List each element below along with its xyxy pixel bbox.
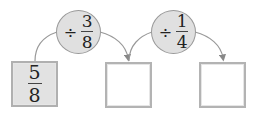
connector-line — [129, 32, 152, 61]
numerator: 1 — [177, 13, 188, 30]
answer-box-2[interactable] — [199, 62, 246, 108]
denominator: 8 — [82, 34, 93, 51]
denominator: 8 — [28, 86, 40, 105]
numerator: 5 — [28, 63, 40, 82]
operation-divide-3-8: ÷ 3 8 — [56, 10, 101, 54]
divide-sign: ÷ — [64, 23, 77, 42]
start-value-box: 5 8 — [11, 61, 58, 107]
operand-fraction: 3 8 — [81, 13, 93, 51]
start-fraction: 5 8 — [28, 63, 42, 105]
divide-sign: ÷ — [159, 23, 172, 42]
connector-line — [35, 32, 57, 61]
fraction-division-diagram: 5 8 ÷ 3 8 ÷ 1 4 — [0, 0, 257, 116]
operation-divide-1-4: ÷ 1 4 — [151, 10, 196, 54]
arrow-icon — [195, 32, 223, 58]
numerator: 3 — [82, 13, 93, 30]
denominator: 4 — [177, 34, 188, 51]
arrow-icon — [100, 32, 128, 58]
operand-fraction: 1 4 — [176, 13, 188, 51]
answer-box-1[interactable] — [105, 62, 152, 108]
